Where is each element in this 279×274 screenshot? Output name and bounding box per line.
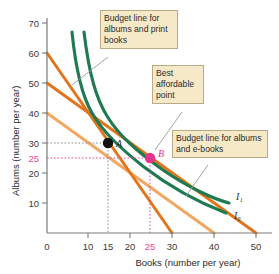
- x-tick-30: 30: [167, 241, 178, 252]
- x-tick-50: 50: [251, 241, 262, 252]
- y-tick-70: 70: [28, 18, 39, 29]
- x-tick-15: 15: [103, 241, 114, 252]
- x-tick-0: 0: [44, 241, 49, 252]
- y-tick-40: 40: [28, 108, 39, 119]
- y-tick-20: 20: [28, 168, 39, 179]
- callout-budget-ebooks: Budget line for albums and e-books: [172, 130, 268, 158]
- y-tick-25: 25: [28, 153, 39, 164]
- y-tick-30: 30: [28, 138, 39, 149]
- x-axis-ticks: [88, 233, 256, 238]
- x-axis-title: Books (number per year): [135, 257, 240, 268]
- x-tick-40: 40: [209, 241, 220, 252]
- curve-label-i0: I₀: [233, 210, 241, 221]
- data-point-b-label: B: [158, 148, 164, 159]
- data-point-a-label: A: [115, 138, 123, 149]
- economics-chart: Albums (number per year): [0, 0, 279, 274]
- y-tick-60: 60: [28, 48, 39, 59]
- data-point-b: [145, 153, 155, 163]
- data-point-a: [103, 138, 113, 148]
- x-tick-20: 20: [125, 241, 136, 252]
- x-tick-25: 25: [145, 241, 156, 252]
- y-tick-50: 50: [28, 78, 39, 89]
- callout-budget-print-books: Budget line for albums and print books: [100, 10, 178, 49]
- y-axis-title: Albums (number per year): [10, 86, 21, 196]
- curve-label-i1: I₁: [235, 191, 243, 202]
- callout-best-affordable-point: Best affordable point: [152, 65, 204, 104]
- y-tick-10: 10: [28, 198, 39, 209]
- x-tick-10: 10: [83, 241, 94, 252]
- y-axis-ticks: [42, 23, 47, 203]
